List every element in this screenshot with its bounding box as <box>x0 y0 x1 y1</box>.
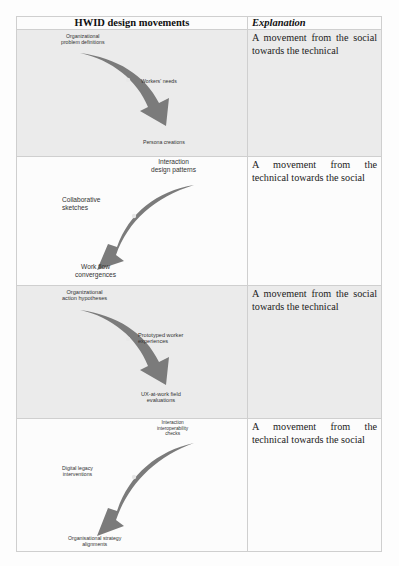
movement-diagram-cell: Interaction interoperability checks Digi… <box>17 419 248 551</box>
explanation-text: A movement from the technical towards th… <box>248 157 381 285</box>
middle-label: Prototyped worker experiences <box>138 332 183 344</box>
header-hwid-design-movements: HWID design movements <box>17 17 248 29</box>
hwid-table: HWID design movements Explanation Organi… <box>16 16 382 552</box>
end-label: Organisational strategy alignments <box>68 535 121 547</box>
movement-diagram-cell: Interaction design patterns Collaborativ… <box>17 157 248 285</box>
explanation-text: A movement from the technical towards th… <box>248 419 381 551</box>
end-label: UX-at-work field evaluations <box>141 391 181 403</box>
curved-arrow-down-left-icon <box>17 157 248 286</box>
table-row: Organizational action hypotheses Prototy… <box>17 286 381 419</box>
end-label: Persona creations <box>143 139 185 145</box>
curved-arrow-down-right-icon <box>17 30 248 157</box>
explanation-text: A movement from the social towards the t… <box>248 286 381 418</box>
movement-diagram-cell: Organizational action hypotheses Prototy… <box>17 286 248 418</box>
table-header-row: HWID design movements Explanation <box>17 17 381 30</box>
table-row: Organizational problem definitions Worke… <box>17 30 381 157</box>
end-label: Work flow convergences <box>75 263 116 279</box>
explanation-text: A movement from the social towards the t… <box>248 30 381 156</box>
table-row: Interaction interoperability checks Digi… <box>17 419 381 551</box>
header-explanation: Explanation <box>248 17 381 29</box>
curved-arrow-down-left-icon <box>17 419 248 551</box>
table-row: Interaction design patterns Collaborativ… <box>17 157 381 286</box>
movement-diagram-cell: Organizational problem definitions Worke… <box>17 30 248 156</box>
middle-label: Workers' needs <box>141 78 177 84</box>
curved-arrow-down-right-icon <box>17 286 248 419</box>
